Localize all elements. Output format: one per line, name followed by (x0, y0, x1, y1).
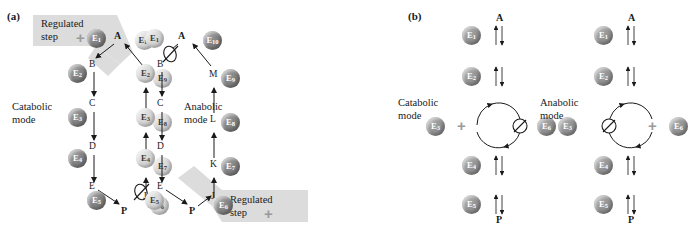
metabolite-E-anabolic-a: E (157, 182, 163, 192)
enzyme-E5-anabolic-b: E5 (594, 195, 613, 214)
metabolite-P-catabolic-a: P (121, 206, 127, 216)
plus-symbol-anabolic-b: + (648, 118, 657, 133)
enzyme-E6-anabolic-b: E6 (669, 117, 688, 136)
enzyme-E9-anabolic-a: E9 (221, 69, 240, 88)
enzyme-E4-catabolic-b: E4 (462, 156, 481, 175)
enzyme-E3-catabolic-b: E3 (426, 117, 445, 136)
metabolite-C-catabolic-a: C (89, 99, 95, 109)
metabolite-A-catabolic-a: A (114, 31, 121, 41)
anabolic-diagram-a: Anabolic mode Regulated step + (200, 0, 400, 246)
enzyme-E3-anabolic-a: E3 (136, 108, 155, 127)
enzyme-E8-anabolic-a: E8 (221, 113, 240, 132)
catabolic-diagram-b: Catabolic mode (400, 0, 545, 246)
enzyme-E5-anabolic-a: E5 (145, 191, 164, 210)
metabolite-A-catabolic-b: A (496, 13, 503, 23)
panel-b: (b) Catabolic mode (400, 0, 676, 246)
metabolite-E-catabolic-a: E (89, 182, 95, 192)
metabolite-K-anabolic-a: K (210, 160, 217, 170)
enzyme-E3-catabolic-a: E3 (68, 108, 87, 127)
metabolite-M-anabolic-a: M (209, 70, 217, 80)
enzyme-E4-catabolic-a: E4 (68, 149, 87, 168)
panel-a: (a) Regulated step + Catabolic mode (0, 0, 400, 246)
metabolite-P-catabolic-b: P (496, 215, 502, 225)
enzyme-E1-catabolic-b: E1 (462, 26, 481, 45)
plus-symbol-catabolic-b: + (457, 118, 466, 133)
enzyme-E2-catabolic-b: E2 (462, 67, 481, 86)
metabolite-A-anabolic-a: A (178, 31, 185, 41)
enzyme-E2-anabolic-a: E2 (136, 64, 155, 83)
enzyme-E4-anabolic-b: E4 (594, 156, 613, 175)
enzyme-E1-anabolic-a: E1 (145, 29, 164, 48)
enzyme-E6-anabolic-a: E6 (214, 196, 233, 215)
enzyme-E1-anabolic-b: E1 (594, 26, 613, 45)
catabolic-diagram-a: Regulated step + Catabolic mode (0, 0, 200, 246)
metabolite-D-catabolic-a: D (89, 142, 96, 152)
metabolite-A-anabolic-b: A (628, 13, 635, 23)
metabolite-P-anabolic-b: P (628, 215, 634, 225)
metabolite-P-anabolic-a: P (189, 206, 195, 216)
metabolite-B-anabolic-a: B (157, 60, 163, 70)
metabolite-L-anabolic-a: L (210, 115, 216, 125)
enzyme-E7-anabolic-a: E7 (221, 157, 240, 176)
enzyme-E5-catabolic-a: E5 (87, 191, 106, 210)
enzyme-E5-catabolic-b: E5 (462, 195, 481, 214)
metabolite-D-anabolic-a: D (157, 142, 164, 152)
enzyme-E2-anabolic-b: E2 (594, 67, 613, 86)
metabolite-C-anabolic-a: C (157, 99, 163, 109)
metabolite-B-catabolic-a: B (89, 60, 95, 70)
enzyme-E3-anabolic-b: E3 (558, 117, 577, 136)
enzyme-E10-anabolic-a: E10 (203, 31, 222, 50)
anabolic-diagram-b: Anabolic mode A P (545, 0, 676, 246)
enzyme-E4-anabolic-a: E4 (136, 149, 155, 168)
enzyme-E1-catabolic-a: E1 (87, 29, 106, 48)
enzyme-E2-catabolic-a: E2 (68, 64, 87, 83)
